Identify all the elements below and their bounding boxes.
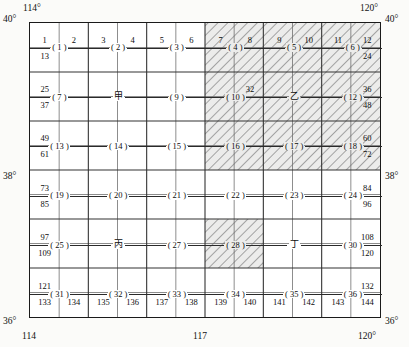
block-label: ( 2 ) xyxy=(110,43,126,52)
cell-number: 140 xyxy=(235,298,264,307)
block-label-leader xyxy=(70,146,88,147)
block-label: ( 31 ) xyxy=(49,290,69,299)
block-label-cjk: 乙 xyxy=(289,92,300,101)
block-label-leader xyxy=(147,146,165,147)
block-label-leader xyxy=(89,245,112,246)
longitude-label-top-left: 114° xyxy=(23,4,41,14)
block-label-cjk: 甲 xyxy=(113,92,124,101)
block-label-leader xyxy=(70,294,88,295)
latitude-label-bottom-right: 36° xyxy=(385,317,398,327)
cell-number: 85 xyxy=(30,200,59,209)
block-label: ( 32 ) xyxy=(108,290,128,299)
latitude-label-top-left: 40° xyxy=(3,15,16,25)
block-label-leader xyxy=(30,97,50,98)
block-label-leader xyxy=(362,48,382,49)
longitude-label-bottom-mid: 117 xyxy=(193,332,207,342)
block-label: ( 27 ) xyxy=(167,241,187,250)
block-label: ( 1 ) xyxy=(51,43,67,52)
block-label-leader xyxy=(147,97,167,98)
block-label: ( 33 ) xyxy=(167,290,187,299)
block-label: ( 13 ) xyxy=(49,142,69,151)
block-label-leader xyxy=(206,146,224,147)
block-label: ( 5 ) xyxy=(286,43,302,52)
block-label: ( 36 ) xyxy=(343,290,363,299)
latitude-label-mid-left: 38° xyxy=(3,172,16,182)
cell-number: 120 xyxy=(353,249,382,258)
block-label-leader xyxy=(68,97,88,98)
cell-number: 37 xyxy=(30,101,59,110)
block-label-leader xyxy=(186,97,206,98)
block-label: ( 7 ) xyxy=(51,93,67,102)
cell-number: 137 xyxy=(147,298,176,307)
cell-number: 139 xyxy=(206,298,235,307)
block-label-leader xyxy=(129,196,147,197)
cell-number: 24 xyxy=(353,52,382,61)
block-label: ( 20 ) xyxy=(108,191,128,200)
block-label: ( 25 ) xyxy=(49,241,69,250)
cell-number: 72 xyxy=(353,150,382,159)
latitude-label-mid-right: 38° xyxy=(385,172,398,182)
block-label: ( 15 ) xyxy=(167,142,187,151)
block-label-leader xyxy=(30,48,50,49)
block-label: ( 23 ) xyxy=(284,191,304,200)
block-label-leader xyxy=(301,245,324,246)
block-label: ( 17 ) xyxy=(284,142,304,151)
cell-number: 144 xyxy=(353,298,382,307)
block-label-leader xyxy=(206,196,224,197)
block-label: ( 6 ) xyxy=(345,43,361,52)
block-label: ( 9 ) xyxy=(169,93,185,102)
block-label-leader xyxy=(89,146,107,147)
map-grid-frame: 1234567891011121331341351361371381391401… xyxy=(29,22,381,318)
block-label-leader xyxy=(364,196,382,197)
block-label: ( 3 ) xyxy=(169,43,185,52)
block-label-leader xyxy=(127,48,147,49)
cell-number: 61 xyxy=(30,150,59,159)
longitude-label-top-right: 120° xyxy=(360,4,378,14)
cell-number: 143 xyxy=(323,298,352,307)
block-label-leader xyxy=(246,294,264,295)
cell-number: 48 xyxy=(353,101,382,110)
block-label-leader xyxy=(30,245,48,246)
block-label: ( 35 ) xyxy=(284,290,304,299)
block-label-leader xyxy=(265,48,285,49)
block-label-leader xyxy=(206,294,224,295)
block-label-leader xyxy=(89,294,107,295)
block-label-leader xyxy=(246,196,264,197)
block-label-leader xyxy=(206,97,224,98)
block-label: ( 30 ) xyxy=(343,241,363,250)
cell-number: 96 xyxy=(353,200,382,209)
cell-number: 109 xyxy=(30,249,59,258)
block-label-leader xyxy=(89,48,109,49)
block-label-leader xyxy=(323,245,341,246)
block-label-leader xyxy=(147,245,165,246)
block-label-leader xyxy=(305,196,323,197)
block-label-leader xyxy=(364,146,382,147)
block-label-leader xyxy=(246,146,264,147)
block-label: ( 22 ) xyxy=(225,191,245,200)
block-label-leader xyxy=(30,196,48,197)
block-label: ( 4 ) xyxy=(227,43,243,52)
block-label: ( 12 ) xyxy=(343,93,363,102)
block-label-leader xyxy=(323,97,341,98)
block-label-leader xyxy=(323,48,343,49)
block-label-leader xyxy=(30,294,48,295)
block-label-leader xyxy=(188,245,206,246)
block-label-leader xyxy=(186,48,206,49)
longitude-label-bottom-right: 120° xyxy=(358,332,376,342)
block-label-cjk: 丁 xyxy=(289,240,300,249)
block-label: ( 21 ) xyxy=(167,191,187,200)
block-label-leader xyxy=(89,97,112,98)
block-label-leader xyxy=(246,245,264,246)
block-label-leader xyxy=(265,245,288,246)
block-label-leader xyxy=(147,48,167,49)
block-label-leader xyxy=(323,196,341,197)
longitude-label-bottom-left: 114 xyxy=(22,332,36,342)
block-label-leader xyxy=(303,48,323,49)
block-label-leader xyxy=(364,245,382,246)
block-label-leader xyxy=(301,97,324,98)
map-index-figure: 114° 120° 40° 40° 38° 38° 36° 36° 114 11… xyxy=(0,0,409,347)
block-label: ( 34 ) xyxy=(225,290,245,299)
block-label-leader xyxy=(188,146,206,147)
block-label: ( 10 ) xyxy=(225,93,245,102)
block-label-leader xyxy=(244,48,264,49)
